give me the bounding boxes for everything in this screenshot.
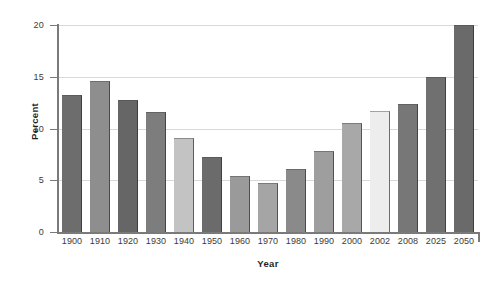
x-tick-label-1960: 1960 [226,236,254,246]
x-tick-label-2025: 2025 [422,236,450,246]
x-axis-right-cap [478,232,480,242]
bar-rect [342,123,362,232]
bar-1980 [286,25,306,232]
x-axis-title: Year [58,258,478,269]
bar-1920 [118,25,138,232]
bar-2025 [426,25,446,232]
y-tick-0 [50,232,57,233]
y-tick-15 [50,77,57,78]
bar-1930 [146,25,166,232]
bar-rect [62,95,82,232]
x-tick-label-1920: 1920 [114,236,142,246]
bar-rect [90,81,110,232]
bar-rect [146,112,166,232]
bar-rect [118,100,138,232]
bar-series [58,25,478,232]
bar-rect [426,77,446,232]
bar-1950 [202,25,222,232]
bar-2000 [342,25,362,232]
y-tick-label-5: 5 [14,175,44,185]
y-tick-label-20: 20 [14,20,44,30]
x-tick-label-2008: 2008 [394,236,422,246]
x-tick-label-1950: 1950 [198,236,226,246]
y-axis-line [57,24,59,233]
bar-rect [286,169,306,232]
x-axis-tick-labels: 1900191019201930194019501960197019801990… [58,236,478,250]
bar-1900 [62,25,82,232]
y-tick-10 [50,129,57,130]
x-tick-label-2002: 2002 [366,236,394,246]
bar-rect [454,25,474,232]
x-axis-line [57,232,480,234]
bar-rect [314,151,334,232]
bar-2008 [398,25,418,232]
bar-1970 [258,25,278,232]
y-tick-5 [50,180,57,181]
x-tick-label-1930: 1930 [142,236,170,246]
y-axis-title: Percent [29,82,40,162]
x-tick-label-1970: 1970 [254,236,282,246]
bar-rect [258,183,278,232]
bar-1910 [90,25,110,232]
bar-rect [230,176,250,232]
bar-1940 [174,25,194,232]
x-tick-label-2050: 2050 [450,236,478,246]
bar-2050 [454,25,474,232]
x-tick-label-2000: 2000 [338,236,366,246]
bar-1960 [230,25,250,232]
bar-rect [398,104,418,232]
y-tick-label-0: 0 [14,227,44,237]
x-tick-label-1940: 1940 [170,236,198,246]
bar-1990 [314,25,334,232]
bar-rect [174,138,194,232]
bar-rect [370,111,390,232]
y-tick-label-15: 15 [14,72,44,82]
x-tick-label-1900: 1900 [58,236,86,246]
x-tick-label-1910: 1910 [86,236,114,246]
y-tick-20 [50,25,57,26]
x-tick-label-1990: 1990 [310,236,338,246]
bar-chart: 20 15 10 5 0 190019101920193019401950196… [0,0,500,284]
x-tick-label-1980: 1980 [282,236,310,246]
bar-rect [202,157,222,232]
bar-2002 [370,25,390,232]
